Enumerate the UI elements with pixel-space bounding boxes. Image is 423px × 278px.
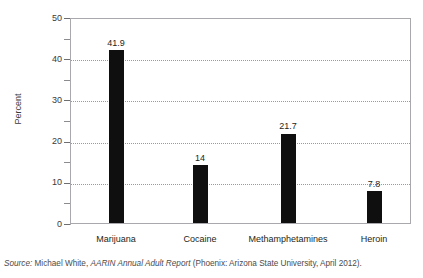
bar-value-marijuana: 41.9 [91,39,141,48]
y-tick-label-50: 50 [36,14,62,23]
source-citation: Source: Michael White, AARIN Annual Adul… [4,259,419,269]
y-tick-label-30: 30 [36,96,62,105]
y-tick-5 [64,203,70,204]
bar-heroin[interactable] [367,191,382,223]
y-tick-45 [64,39,70,40]
y-tick-0 [64,224,70,225]
y-tick-35 [64,80,70,81]
y-tick-label-0: 0 [36,220,62,229]
source-suffix: (Phoenix: Arizona State University, Apri… [190,259,361,268]
y-tick-50 [64,18,70,19]
bar-cocaine[interactable] [193,165,208,223]
source-author: Michael White, [32,259,90,268]
y-tick-25 [64,121,70,122]
y-tick-label-20: 20 [36,137,62,146]
y-tick-30 [64,100,70,101]
bar-value-methamphetamines: 21.7 [263,122,313,131]
plot-area [70,18,411,224]
y-tick-15 [64,162,70,163]
y-tick-10 [64,183,70,184]
bar-marijuana[interactable] [109,50,124,223]
y-tick-20 [64,142,70,143]
bar-methamphetamines[interactable] [281,134,296,223]
y-axis-title: Percent [13,79,23,139]
y-tick-40 [64,59,70,60]
bar-value-heroin: 7.8 [349,180,399,189]
y-tick-label-40: 40 [36,55,62,64]
source-work-title: AARIN Annual Adult Report [90,259,190,268]
y-axis-tick-labels: 50 40 30 20 10 0 [32,0,62,250]
bar-value-cocaine: 14 [175,154,225,163]
y-tick-label-10: 10 [36,178,62,187]
source-prefix: Source: [4,259,32,268]
x-category-label-heroin: Heroin [319,234,423,244]
y-axis-line [70,18,71,225]
bar-chart-figure: 50 40 30 20 10 0 Percent 41.9 14 21.7 7.… [0,0,423,250]
